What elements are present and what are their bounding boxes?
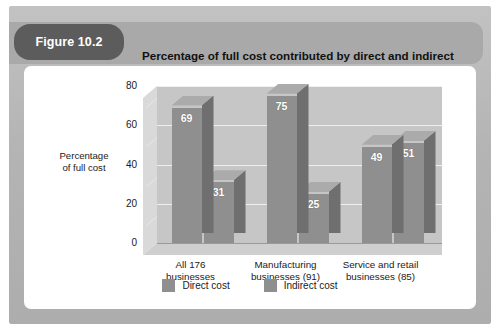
bar-direct-cost: 49 [362, 135, 392, 243]
bar-direct-cost: 75 [267, 84, 297, 243]
bar-chart: Percentage of full cost 020406080 693175… [24, 66, 476, 309]
legend-label-direct-cost: Direct cost [182, 280, 229, 291]
bar-front-face [172, 108, 202, 243]
legend-swatch-indirect-cost [264, 279, 277, 292]
figure-page: Percentage of full cost contributed by d… [0, 0, 500, 330]
y-axis-tick-label: 40 [111, 159, 137, 170]
y-axis-tick-label: 60 [111, 119, 137, 130]
y-axis-tick-label: 80 [111, 80, 137, 91]
legend-item-indirect-cost: Indirect cost [264, 279, 338, 292]
category-label-line-1: Manufacturing [238, 259, 333, 271]
chart-legend: Direct cost Indirect cost [24, 279, 476, 292]
bar-value-label: 49 [362, 151, 392, 163]
y-axis-tick-label: 0 [111, 237, 137, 248]
bar-side-face [297, 84, 309, 233]
figure-number-label: Figure 10.2 [35, 35, 102, 49]
legend-item-direct-cost: Direct cost [162, 279, 229, 292]
bar-front-face [267, 96, 297, 243]
bar-value-label: 75 [267, 100, 297, 112]
category-label-line-1: All 176 [143, 259, 238, 271]
bar-side-face [392, 135, 404, 233]
bar-side-face [234, 170, 246, 233]
y-axis-tick-label: 20 [111, 198, 137, 209]
bar-value-label: 69 [172, 112, 202, 124]
plot-side-wall [143, 86, 157, 255]
chart-card: Percentage of full cost 020406080 693175… [24, 66, 476, 309]
category-label-line-1: Service and retail [333, 259, 428, 271]
x-axis-line [157, 243, 442, 244]
plot-floor [143, 243, 442, 255]
bar-side-face [424, 131, 436, 233]
legend-swatch-direct-cost [162, 279, 175, 292]
figure-number-badge: Figure 10.2 [14, 24, 124, 60]
legend-label-indirect-cost: Indirect cost [284, 280, 338, 291]
bar-side-face [202, 96, 214, 233]
bar-direct-cost: 69 [172, 96, 202, 243]
